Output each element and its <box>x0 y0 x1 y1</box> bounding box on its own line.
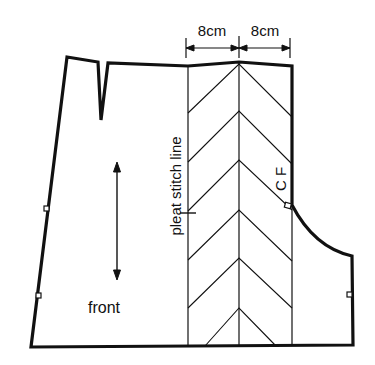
side-notch-upper <box>44 206 49 211</box>
piece-name-label: front <box>88 299 121 316</box>
chevron-lines <box>188 64 292 346</box>
inseam-notch <box>347 292 352 297</box>
dimension-label-left: 8cm <box>198 22 226 39</box>
pattern-diagram: 8cm 8cm pleat stitch line C F front <box>0 0 375 365</box>
grain-line-arrow-icon <box>114 162 121 280</box>
side-notch-lower <box>36 293 41 298</box>
centre-front-label: C F <box>272 167 289 191</box>
pleat-lines <box>188 62 292 346</box>
cf-notch <box>284 202 291 208</box>
notches <box>36 202 352 298</box>
pleat-stitch-line-label: pleat stitch line <box>167 136 184 235</box>
dimension-label-right: 8cm <box>251 22 279 39</box>
dimension-arrows <box>186 36 290 58</box>
